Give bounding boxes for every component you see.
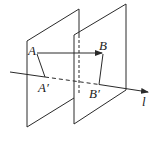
label-l: l: [142, 94, 146, 109]
label-b-prime: B′: [89, 86, 100, 101]
label-b: B: [99, 38, 107, 53]
label-a-prime: A′: [37, 80, 49, 95]
label-a: A: [27, 43, 36, 58]
line-l-hidden-segment: [45, 77, 99, 85]
segment-b-bprime: [99, 54, 103, 85]
segment-a-aprime: [37, 54, 45, 77]
left-plane: [27, 9, 79, 127]
right-plane: [74, 4, 126, 124]
geometry-figure: A B A′ B′ l: [0, 0, 157, 143]
